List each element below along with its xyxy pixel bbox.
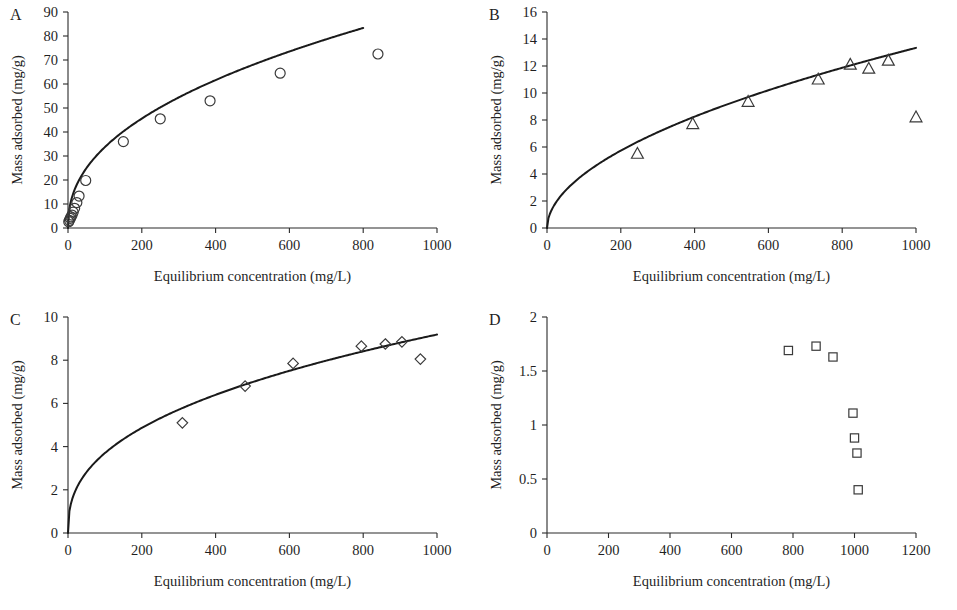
- x-tick-label: 1000: [423, 542, 452, 558]
- data-point-square: [849, 409, 857, 417]
- y-tick-label: 70: [44, 52, 59, 68]
- y-tick-label: 0: [51, 525, 58, 541]
- x-tick-label: 400: [684, 237, 706, 253]
- x-tick-label: 600: [279, 237, 301, 253]
- x-tick-label: 1000: [902, 237, 931, 253]
- data-point-circle: [205, 96, 215, 106]
- x-axis-title: Equilibrium concentration (mg/L): [633, 268, 830, 285]
- panel-c: C 024681002004006008001000Equilibrium co…: [0, 305, 478, 610]
- x-tick-label: 400: [205, 542, 227, 558]
- panel-a-plot: 010203040506070809002004006008001000Equi…: [9, 4, 452, 285]
- data-point-square: [853, 449, 861, 457]
- y-tick-label: 6: [51, 395, 58, 411]
- y-tick-label: 10: [44, 309, 59, 325]
- data-point-square: [854, 486, 862, 494]
- panel-c-letter: C: [10, 311, 21, 328]
- x-tick-label: 800: [352, 237, 374, 253]
- y-tick-label: 90: [44, 4, 59, 20]
- data-point-circle: [155, 114, 165, 124]
- y-axis-title: Mass adsorbed (mg/g): [9, 55, 26, 185]
- x-tick-label: 600: [279, 542, 301, 558]
- y-tick-label: 0.5: [519, 471, 537, 487]
- y-tick-label: 0: [530, 220, 537, 236]
- panel-d-letter: D: [489, 311, 501, 328]
- data-point-square: [829, 353, 837, 361]
- panel-b-letter: B: [489, 6, 500, 23]
- data-point-circle: [74, 191, 84, 201]
- y-tick-label: 14: [523, 31, 538, 47]
- panel-b-chart: B 024681012141602004006008001000Equilibr…: [479, 0, 957, 305]
- data-point-diamond: [415, 354, 426, 365]
- data-point-diamond: [288, 358, 299, 369]
- data-point-circle: [373, 49, 383, 59]
- y-tick-label: 8: [51, 352, 58, 368]
- x-tick-label: 0: [543, 237, 550, 253]
- y-tick-label: 10: [44, 196, 59, 212]
- x-tick-label: 600: [758, 237, 780, 253]
- x-tick-label: 0: [64, 542, 71, 558]
- y-axis-title: Mass adsorbed (mg/g): [488, 55, 505, 185]
- x-tick-label: 200: [598, 542, 620, 558]
- x-tick-label: 200: [131, 237, 153, 253]
- y-tick-label: 10: [523, 85, 538, 101]
- x-tick-label: 800: [782, 542, 804, 558]
- y-tick-label: 16: [523, 4, 538, 20]
- x-tick-label: 400: [205, 237, 227, 253]
- data-point-circle: [81, 175, 91, 185]
- panel-d: D 00.511.52020040060080010001200Equilibr…: [479, 305, 957, 610]
- x-tick-label: 800: [352, 542, 374, 558]
- data-point-square: [812, 342, 820, 350]
- fit-curve: [547, 48, 916, 228]
- y-tick-label: 2: [51, 482, 58, 498]
- x-axis-title: Equilibrium concentration (mg/L): [154, 268, 351, 285]
- y-tick-label: 8: [530, 112, 537, 128]
- data-point-triangle: [910, 111, 922, 122]
- panel-b: B 024681012141602004006008001000Equilibr…: [479, 0, 957, 305]
- x-axis-title: Equilibrium concentration (mg/L): [633, 573, 830, 590]
- y-tick-label: 20: [44, 172, 59, 188]
- panel-d-plot: 00.511.52020040060080010001200Equilibriu…: [488, 309, 931, 590]
- y-tick-label: 0: [51, 220, 58, 236]
- panel-c-plot: 024681002004006008001000Equilibrium conc…: [9, 309, 452, 590]
- x-tick-label: 200: [610, 237, 632, 253]
- y-tick-label: 30: [44, 148, 59, 164]
- y-tick-label: 2: [530, 309, 537, 325]
- x-tick-label: 1200: [902, 542, 931, 558]
- data-point-circle: [275, 68, 285, 78]
- panel-a: A 010203040506070809002004006008001000Eq…: [0, 0, 478, 305]
- y-axis-title: Mass adsorbed (mg/g): [9, 360, 26, 490]
- y-axis-title: Mass adsorbed (mg/g): [488, 360, 505, 490]
- panel-a-letter: A: [10, 6, 22, 23]
- y-tick-label: 12: [523, 58, 538, 74]
- y-tick-label: 6: [530, 139, 537, 155]
- y-tick-label: 1.5: [519, 363, 537, 379]
- y-tick-label: 40: [44, 124, 59, 140]
- data-point-square: [850, 434, 858, 442]
- y-tick-label: 2: [530, 193, 537, 209]
- y-tick-label: 4: [530, 166, 538, 182]
- data-point-triangle: [863, 62, 875, 73]
- y-tick-label: 80: [44, 28, 59, 44]
- y-tick-label: 50: [44, 100, 59, 116]
- x-tick-label: 1000: [840, 542, 869, 558]
- x-tick-label: 1000: [423, 237, 452, 253]
- x-tick-label: 600: [721, 542, 743, 558]
- fit-curve: [68, 335, 437, 533]
- x-tick-label: 0: [64, 237, 71, 253]
- data-point-triangle: [631, 148, 643, 159]
- data-point-circle: [72, 198, 82, 208]
- data-point-square: [784, 346, 792, 354]
- data-point-diamond: [356, 341, 367, 352]
- x-tick-label: 200: [131, 542, 153, 558]
- panel-a-chart: A 010203040506070809002004006008001000Eq…: [0, 0, 478, 305]
- y-tick-label: 1: [530, 417, 537, 433]
- x-tick-label: 400: [659, 542, 681, 558]
- data-point-circle: [118, 137, 128, 147]
- x-tick-label: 0: [543, 542, 550, 558]
- x-tick-label: 800: [831, 237, 853, 253]
- data-point-circle: [70, 203, 80, 213]
- y-tick-label: 60: [44, 76, 59, 92]
- y-tick-label: 0: [530, 525, 537, 541]
- fit-curve: [68, 28, 363, 228]
- panel-d-chart: D 00.511.52020040060080010001200Equilibr…: [479, 305, 957, 610]
